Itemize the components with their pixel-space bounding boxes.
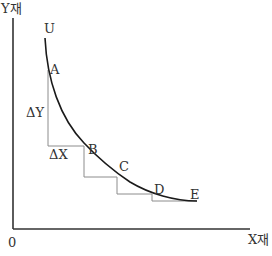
diagram-graphics bbox=[0, 0, 272, 256]
origin-label: 0 bbox=[8, 236, 16, 249]
curve-label-u: U bbox=[44, 22, 55, 35]
indifference-curve bbox=[45, 38, 197, 201]
delta-steps bbox=[48, 70, 197, 201]
y-axis-label: Y재 bbox=[1, 2, 22, 15]
point-label-c: C bbox=[119, 160, 129, 173]
point-label-b: B bbox=[88, 143, 98, 156]
point-label-e: E bbox=[190, 188, 200, 201]
indifference-curve-diagram: Y재 X재 0 U A B C D E ΔY ΔX bbox=[0, 0, 272, 256]
delta-x-label: ΔX bbox=[49, 148, 68, 161]
point-label-d: D bbox=[154, 183, 164, 196]
delta-y-label: ΔY bbox=[26, 106, 44, 119]
x-axis-label: X재 bbox=[248, 233, 269, 246]
point-label-a: A bbox=[50, 63, 59, 76]
